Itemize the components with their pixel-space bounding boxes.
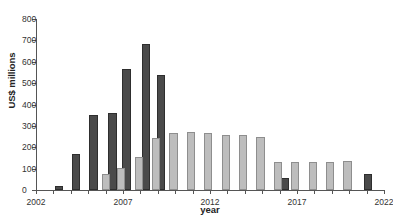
x-tick	[349, 190, 350, 194]
x-tick	[297, 190, 298, 194]
bar	[256, 137, 264, 190]
bar	[274, 162, 282, 190]
x-tick	[88, 190, 89, 194]
plot-area: 0100200300400500600700800 20022007201220…	[36, 19, 384, 190]
bar	[343, 161, 351, 190]
bar	[89, 115, 97, 190]
x-axis-title: year	[36, 204, 384, 215]
bar	[55, 186, 63, 190]
x-tick	[245, 190, 246, 194]
y-tick-label: 500	[22, 78, 26, 88]
bar	[239, 135, 247, 190]
bar	[291, 162, 299, 190]
x-tick	[106, 190, 107, 194]
y-tick-label: 200	[22, 142, 26, 152]
bar	[117, 168, 125, 190]
y-axis-line	[36, 19, 37, 190]
bar	[135, 157, 143, 190]
x-tick	[280, 190, 281, 194]
bar	[364, 174, 372, 190]
x-tick	[227, 190, 228, 194]
bar	[102, 174, 110, 190]
bar	[152, 138, 160, 190]
x-tick	[262, 190, 263, 194]
x-tick	[332, 190, 333, 194]
y-tick-label: 100	[22, 164, 26, 174]
bar	[142, 44, 150, 190]
x-tick	[140, 190, 141, 194]
y-tick-label: 400	[22, 100, 26, 110]
x-tick	[314, 190, 315, 194]
x-tick	[367, 190, 368, 194]
bar	[72, 154, 80, 190]
bar	[326, 162, 334, 190]
bar	[204, 133, 212, 190]
bar	[309, 162, 317, 190]
y-tick-label: 0	[22, 185, 26, 195]
x-tick	[53, 190, 54, 194]
x-tick	[193, 190, 194, 194]
x-tick	[384, 190, 385, 194]
y-tick-label: 300	[22, 121, 26, 131]
y-tick-label: 700	[22, 35, 26, 45]
bar	[169, 133, 177, 190]
cut-off-title	[14, 0, 314, 5]
x-tick	[71, 190, 72, 194]
x-tick	[210, 190, 211, 194]
x-tick	[158, 190, 159, 194]
bar	[281, 178, 289, 190]
y-tick-label: 800	[22, 14, 26, 24]
x-tick	[175, 190, 176, 194]
bar	[187, 132, 195, 190]
y-tick-label: 600	[22, 57, 26, 67]
x-tick	[123, 190, 124, 194]
y-axis-title: US$ millions	[6, 36, 17, 126]
x-tick	[36, 190, 37, 194]
bar	[222, 135, 230, 190]
